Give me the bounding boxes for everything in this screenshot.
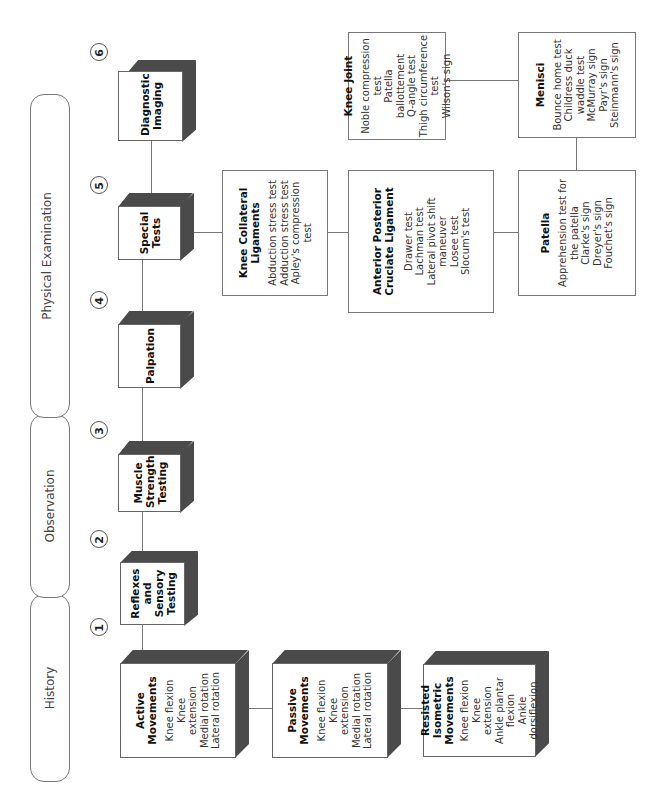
list-item: Lateral pivot shift maneuver: [426, 188, 449, 296]
box-items: Abduction stress test Adduction stress t…: [267, 174, 313, 292]
list-item: Knee extension: [471, 686, 494, 736]
phase-tab-observation-label-wrap: Observation: [30, 414, 70, 598]
list-item: Medial rotation: [351, 672, 363, 749]
connector-collateral-cruciate: [327, 232, 349, 233]
connector-active-passive: [248, 708, 273, 709]
list-item: Thigh circumference test: [418, 34, 441, 138]
list-item: Knee flexion: [164, 672, 176, 749]
phase-label: Observation: [43, 469, 57, 542]
list-item: Dreyer's sign: [592, 173, 604, 293]
passive-box-side-shade: [387, 650, 401, 758]
list-item: Drawer test: [403, 188, 415, 296]
box-title: Palpation: [144, 328, 156, 384]
list-item: Losee test: [449, 188, 461, 296]
step-circle-2: 2: [90, 530, 108, 548]
box-title: Knee Collateral Ligaments: [237, 183, 261, 283]
muscle-box-side-shade: [180, 441, 194, 513]
list-item: Steinmann's sign: [609, 39, 621, 130]
box-title: Resisted Isometric Movements: [419, 676, 455, 746]
box-title: Anterior Posterior Cruciate Ligament: [371, 187, 395, 297]
connector-kneejoint-menisci: [445, 80, 519, 81]
list-item: Slocum's test: [460, 188, 472, 296]
list-item: Knee extension: [328, 686, 351, 736]
list-item: Apprehension test for the patella: [557, 173, 580, 293]
list-item: Abduction stress test: [267, 174, 279, 292]
list-item: Q-angle test: [406, 34, 418, 138]
list-item: Medial rotation: [199, 672, 211, 749]
box-items: Noble compression test Patella ballottem…: [360, 34, 452, 138]
phase-label: Physical Examination: [40, 192, 54, 320]
box-items: Drawer test Lachman test Lateral pivot s…: [403, 188, 472, 296]
list-item: Payr's sign: [598, 39, 610, 130]
box-items: Apprehension test for the patella Clarke…: [557, 173, 615, 293]
box-title: Muscle Strength Testing: [132, 458, 168, 508]
list-item: Lateral rotation: [362, 672, 374, 749]
list-item: Ankle dorsiflexion: [517, 680, 540, 742]
phase-label: History: [43, 667, 57, 710]
list-item: Lachman test: [414, 188, 426, 296]
phase-tab-physical-label-wrap: Physical Examination: [30, 94, 70, 418]
step-number: 4: [91, 292, 109, 310]
list-item: Knee flexion: [316, 672, 328, 749]
list-item: Ankle plantar flexion: [494, 675, 517, 747]
resisted-box-top-shade: [423, 651, 549, 665]
step-number: 3: [91, 422, 109, 440]
list-item: Knee extension: [176, 686, 199, 736]
box-title: Menisci: [534, 63, 546, 108]
step-circle-4: 4: [90, 291, 108, 309]
connector-patella-menisci: [576, 137, 577, 171]
list-item: Noble compression test: [360, 36, 383, 136]
active-box-top-shade: [120, 650, 248, 664]
list-item: Fouchet's sign: [603, 173, 615, 293]
connector-cruciate-patella: [493, 232, 519, 233]
list-item: Knee flexion: [459, 675, 471, 747]
connector-special-collateral: [193, 232, 223, 233]
active-box-side-shade: [235, 650, 249, 758]
list-item: McMurray sign: [586, 39, 598, 130]
box-items: Knee flexion Knee extension Ankle planta…: [459, 675, 540, 747]
list-item: Patella ballottement: [383, 51, 406, 121]
box-title: Passive Movements: [286, 676, 310, 746]
step-number: 2: [91, 531, 109, 549]
step-number: 5: [91, 177, 109, 195]
list-item: Adduction stress test: [279, 174, 291, 292]
box-title: Reflexes and Sensory Testing: [129, 568, 177, 620]
step-number: 6: [91, 44, 109, 62]
connector-palpation-muscle: [142, 388, 143, 442]
passive-box-top-shade: [272, 650, 400, 664]
reflexes-box-side-shade: [184, 551, 198, 626]
box-title: Knee Joint: [342, 56, 354, 117]
box-title: Active Movements: [134, 676, 158, 746]
box-items: Knee flexion Knee extension Medial rotat…: [164, 672, 222, 749]
step-circle-1: 1: [90, 618, 108, 636]
list-item: Wilson's sign: [441, 34, 453, 138]
step-number: 1: [91, 619, 109, 637]
step-circle-5: 5: [90, 176, 108, 194]
box-title: Diagnostic Imaging: [139, 76, 163, 136]
step-circle-6: 6: [90, 43, 108, 61]
list-item: Bounce home test: [552, 39, 564, 130]
list-item: Apley's compression test: [290, 174, 313, 292]
box-title: Special Tests: [138, 211, 162, 255]
step-circle-3: 3: [90, 421, 108, 439]
connector-special-palpation: [142, 260, 143, 312]
box-title: Patella: [539, 213, 551, 254]
list-item: Clarke's sign: [580, 173, 592, 293]
list-item: Lateral rotation: [210, 672, 222, 749]
list-item: Childress duck waddle test: [563, 42, 586, 128]
box-items: Bounce home test Childress duck waddle t…: [552, 39, 621, 130]
palpation-box-side-shade: [180, 311, 194, 389]
box-items: Knee flexion Knee extension Medial rotat…: [316, 672, 374, 749]
phase-tab-history-label-wrap: History: [30, 594, 70, 782]
imaging-box-side-shade: [182, 60, 196, 142]
